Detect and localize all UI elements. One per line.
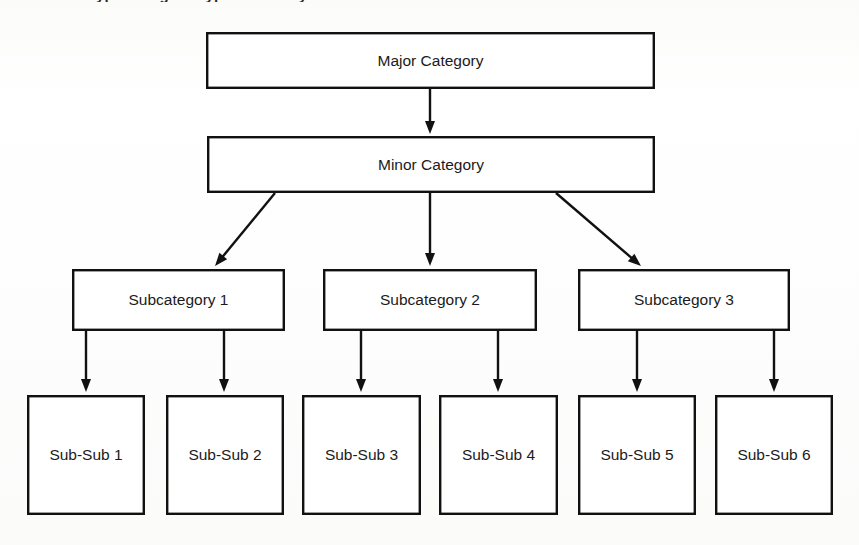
node-label: Subcategory 3 — [634, 291, 734, 308]
arrow-head-icon — [356, 379, 366, 392]
node-label: Subcategory 2 — [380, 291, 480, 308]
node-label: Sub-Sub 1 — [49, 446, 122, 463]
connector-e-sub1-ss1 — [81, 331, 91, 392]
connectors-layer — [81, 89, 779, 392]
node-ss3[interactable]: Sub-Sub 3 — [303, 396, 420, 514]
node-ss4[interactable]: Sub-Sub 4 — [440, 396, 557, 514]
connector-e-minor-sub3 — [556, 193, 641, 266]
connector-line — [221, 193, 275, 259]
node-label: Sub-Sub 5 — [600, 446, 673, 463]
connector-e-sub3-ss6 — [769, 331, 779, 392]
node-label: Major Category — [378, 52, 484, 69]
connector-e-minor-sub2 — [425, 193, 435, 266]
node-sub1[interactable]: Subcategory 1 — [73, 270, 284, 330]
node-label: Subcategory 1 — [129, 291, 229, 308]
connector-e-sub3-ss5 — [632, 331, 642, 392]
node-sub2[interactable]: Subcategory 2 — [324, 270, 536, 330]
node-ss1[interactable]: Sub-Sub 1 — [28, 396, 144, 514]
connector-e-sub2-ss4 — [493, 331, 503, 392]
node-label: Sub-Sub 3 — [325, 446, 398, 463]
arrow-head-icon — [769, 379, 779, 392]
node-ss2[interactable]: Sub-Sub 2 — [167, 396, 283, 514]
node-label: Minor Category — [378, 156, 484, 173]
node-label: Sub-Sub 4 — [462, 446, 536, 463]
node-major[interactable]: Major Category — [207, 33, 654, 88]
connector-e-major-minor — [425, 89, 435, 134]
arrow-head-icon — [493, 379, 503, 392]
diagram-page: ypical Higher Type Hierarchy Major Categ… — [0, 0, 859, 545]
node-sub3[interactable]: Subcategory 3 — [579, 270, 789, 330]
arrow-head-icon — [81, 379, 91, 392]
node-minor[interactable]: Minor Category — [208, 137, 654, 192]
node-label: Sub-Sub 2 — [188, 446, 261, 463]
arrow-head-icon — [425, 253, 435, 266]
hierarchy-diagram: Major CategoryMinor CategorySubcategory … — [0, 0, 859, 545]
node-ss6[interactable]: Sub-Sub 6 — [716, 396, 832, 514]
arrow-head-icon — [632, 379, 642, 392]
arrow-head-icon — [425, 121, 435, 134]
node-label: Sub-Sub 6 — [737, 446, 810, 463]
connector-e-sub1-ss2 — [219, 331, 229, 392]
arrow-head-icon — [219, 379, 229, 392]
node-ss5[interactable]: Sub-Sub 5 — [579, 396, 695, 514]
connector-e-sub2-ss3 — [356, 331, 366, 392]
connector-line — [556, 193, 634, 260]
connector-e-minor-sub1 — [215, 193, 275, 266]
